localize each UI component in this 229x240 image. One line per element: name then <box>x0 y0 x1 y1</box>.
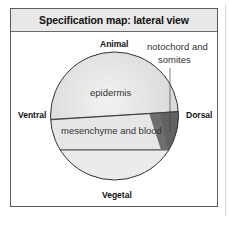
axis-label-ventral: Ventral <box>18 110 46 120</box>
axis-label-vegetal: Vegetal <box>102 190 132 200</box>
callout-label-line1: notochord and <box>147 41 208 52</box>
axis-label-dorsal: Dorsal <box>186 110 212 120</box>
axis-label-animal: Animal <box>100 39 128 49</box>
vegetal-region <box>40 150 190 190</box>
region-label-epidermis: epidermis <box>90 87 131 98</box>
region-label-mesenchyme: mesenchyme and blood <box>61 125 162 136</box>
callout-label-line2: somites <box>158 54 191 65</box>
